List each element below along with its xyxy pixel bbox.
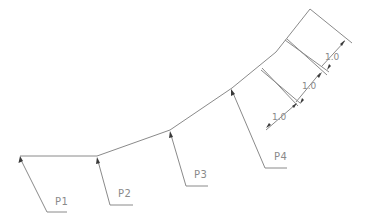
dimension-1: 1.0 — [322, 40, 345, 70]
label-p3: P3 — [194, 169, 207, 180]
leader-p2: P2 — [96, 157, 133, 205]
leader-p1: P1 — [19, 156, 69, 212]
label-p4: P4 — [274, 151, 287, 162]
arrowhead-icon — [300, 98, 304, 104]
arrowhead-icon — [231, 89, 235, 96]
dimension-value-1: 1.0 — [325, 52, 340, 62]
dimension-2: 1.0 — [296, 72, 322, 104]
arrowhead-icon — [327, 64, 331, 70]
dimension-3: 1.0 — [266, 103, 297, 130]
main-polyline — [20, 9, 310, 156]
label-p2: P2 — [118, 188, 131, 199]
leader-p3: P3 — [169, 131, 208, 186]
dimension-value-2: 1.0 — [302, 81, 317, 91]
arrowhead-icon — [169, 131, 173, 138]
leader-p4: P4 — [231, 89, 287, 168]
dimension-value-3: 1.0 — [272, 112, 287, 122]
label-p1: P1 — [55, 196, 68, 207]
drawing-svg: P1 P2 P3 P4 1.0 1.0 — [0, 0, 365, 223]
arrowhead-icon — [96, 157, 100, 164]
cad-drawing: P1 P2 P3 P4 1.0 1.0 — [0, 0, 365, 223]
